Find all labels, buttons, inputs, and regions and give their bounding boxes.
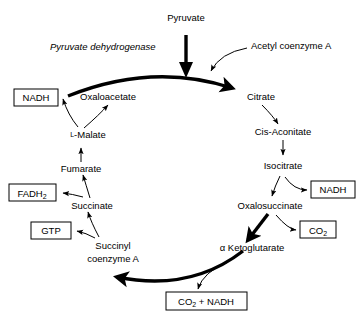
arrow-isocitrate-to-oxalosuccinate <box>272 176 280 196</box>
diagram-canvas: Pyruvate Pyruvate dehydrogenase Acetyl c… <box>0 0 362 322</box>
arrow-l-malate-to-nadh <box>63 99 78 127</box>
product-box-co2: CO2 <box>300 221 336 238</box>
arrow-succinate-to-fumarate <box>83 175 90 198</box>
co2-label-main: CO <box>309 224 323 235</box>
arrow-succinyl-coa-to-gtp <box>77 231 95 238</box>
co2-nadh-label: CO2 + NADH <box>178 296 234 308</box>
label-succinate: Succinate <box>71 200 113 211</box>
arrow-acetyl-coa-into-cycle <box>211 48 247 71</box>
arrow-l-malate-to-oxaloacetate <box>84 105 108 128</box>
product-box-nadh-isocitrate: NADH <box>311 181 355 198</box>
label-citrate: Citrate <box>247 91 275 102</box>
label-succinyl-coenzyme-a-line1: Succinyl <box>95 240 130 251</box>
label-cis-aconitate-rest: -Aconitate <box>268 126 311 137</box>
label-isocitrate: Isocitrate <box>264 160 303 171</box>
arrow-succinyl-coa-to-succinate <box>88 212 99 237</box>
product-box-gtp: GTP <box>31 222 71 239</box>
product-box-co2-nadh: CO2 + NADH <box>166 292 247 310</box>
arrow-succinate-to-fadh2 <box>63 193 83 197</box>
fadh2-label-subscript: 2 <box>43 192 47 199</box>
label-pyruvate-dehydrogenase: Pyruvate dehydrogenase <box>50 41 156 52</box>
arrow-pyruvate-to-cycle <box>179 35 193 78</box>
co2-label-subscript: 2 <box>323 229 327 236</box>
label-l-malate-rest: -Malate <box>74 129 106 140</box>
co2-nadh-label-post: + NADH <box>196 296 234 307</box>
product-box-fadh2: FADH2 <box>9 184 56 201</box>
fadh2-label: FADH2 <box>17 187 46 199</box>
nadh-malate-label: NADH <box>23 92 50 103</box>
label-l-malate: L-Malate <box>70 129 106 140</box>
label-acetyl-coenzyme-a: Acetyl coenzyme A <box>251 40 332 51</box>
arrow-isocitrate-to-nadh <box>285 177 307 190</box>
label-oxalosuccinate: Oxalosuccinate <box>238 200 303 211</box>
fadh2-label-main: FADH <box>17 187 42 198</box>
label-fumarate: Fumarate <box>61 163 102 174</box>
arrow-oxalosuccinate-to-ketoglutarate <box>248 214 268 240</box>
label-pyruvate: Pyruvate <box>167 12 205 23</box>
arrow-oxalosuccinate-to-co2 <box>276 215 296 230</box>
krebs-cycle-diagram: Pyruvate Pyruvate dehydrogenase Acetyl c… <box>0 0 362 322</box>
product-box-nadh-malate: NADH <box>14 89 58 106</box>
label-oxaloacetate: Oxaloacetate <box>80 91 136 102</box>
label-succinyl-coenzyme-a-line2: coenzyme A <box>87 253 139 264</box>
label-alpha-ketoglutarate: α Ketoglutarate <box>220 242 285 253</box>
label-cis-aconitate-prefix: Cis <box>255 126 269 137</box>
label-cis-aconitate: Cis-Aconitate <box>255 126 312 137</box>
co2-nadh-label-pre: CO <box>178 296 192 307</box>
arrow-citrate-to-cis-aconitate <box>262 105 278 124</box>
nadh-isocitrate-label: NADH <box>320 184 347 195</box>
arrow-ketoglutarate-to-co2-nadh <box>198 262 228 289</box>
gtp-label: GTP <box>41 225 61 236</box>
